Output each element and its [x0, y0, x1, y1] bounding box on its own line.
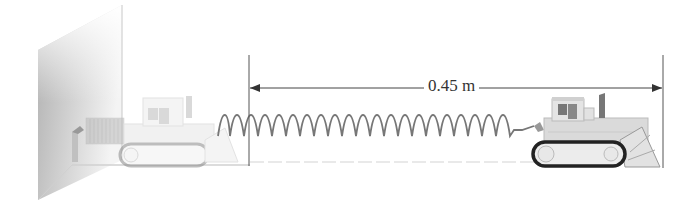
diagram-canvas: [0, 0, 700, 206]
spring: [218, 115, 534, 136]
bulldozer: [533, 93, 660, 167]
dimension-label: 0.45 m: [424, 76, 479, 96]
